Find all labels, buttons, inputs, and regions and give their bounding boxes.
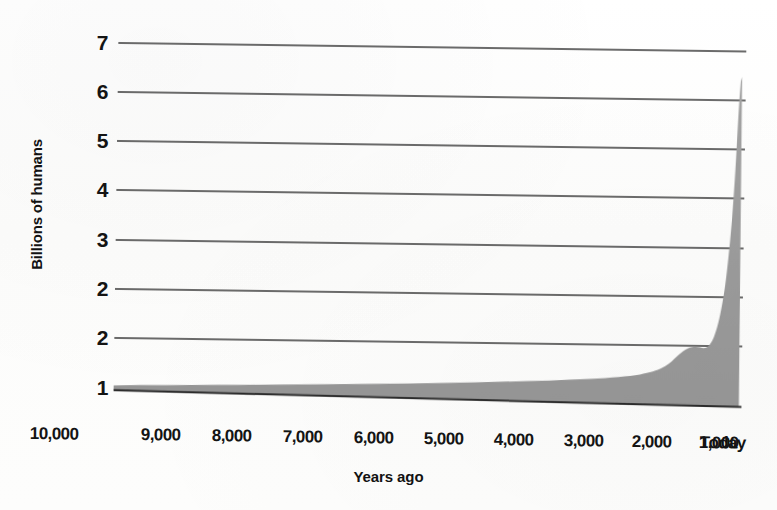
gridline-3 xyxy=(116,240,744,249)
y-axis-title: Billions of humans xyxy=(28,85,45,325)
y-tick-label-3: 3 xyxy=(62,229,108,250)
gridline-2-lower xyxy=(114,338,742,347)
gridline-group xyxy=(114,43,746,347)
x-tick-label-today-visible: Today xyxy=(700,434,746,451)
population-area-fill xyxy=(114,68,744,407)
y-tick-label-2-lower: 2 xyxy=(62,327,108,348)
y-tick-label-2-upper: 2 xyxy=(62,278,108,299)
x-tick-label-2000: 2,000 xyxy=(632,433,672,450)
x-tick-label-6000: 6,000 xyxy=(354,429,394,446)
population-area-series xyxy=(114,68,744,407)
y-tick-label-7: 7 xyxy=(62,32,108,53)
y-tick-label-4: 4 xyxy=(62,179,108,200)
gridline-6 xyxy=(118,92,746,101)
y-tick-label-5: 5 xyxy=(62,130,108,151)
x-axis-title: Years ago xyxy=(0,468,777,485)
x-tick-label-3000: 3,000 xyxy=(564,432,604,449)
x-tick-label-7000: 7,000 xyxy=(283,428,323,445)
gridline-4 xyxy=(116,190,744,199)
x-tick-label-4000: 4,000 xyxy=(494,431,534,448)
gridline-5 xyxy=(117,141,745,150)
y-tick-label-1: 1 xyxy=(62,377,108,398)
x-tick-label-5000: 5,000 xyxy=(424,430,464,447)
y-tick-label-6: 6 xyxy=(62,81,108,102)
population-growth-chart: 7 6 5 4 3 2 2 1 10,000 9,000 8,000 7,000… xyxy=(0,0,777,510)
gridline-2-upper xyxy=(115,289,743,298)
x-tick-label-8000: 8,000 xyxy=(212,427,252,444)
x-tick-label-10000: 10,000 xyxy=(30,425,79,443)
x-tick-label-9000: 9,000 xyxy=(141,426,181,443)
gridline-7 xyxy=(118,43,746,52)
